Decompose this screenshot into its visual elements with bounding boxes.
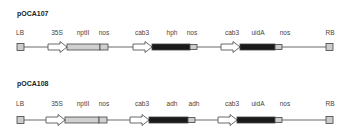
construct-map-1 bbox=[17, 42, 333, 53]
promoter-35s-arrow-2 bbox=[46, 115, 65, 126]
construct-diagrams bbox=[0, 0, 347, 134]
promoter-35s-arrow-1 bbox=[48, 42, 67, 53]
adh-terminator-2 bbox=[188, 118, 195, 123]
lb-border-2 bbox=[17, 117, 24, 124]
rb-border-2 bbox=[326, 117, 333, 124]
construct-map-2 bbox=[17, 115, 333, 126]
nos-terminator-2c bbox=[275, 118, 282, 123]
promoter-cab3-arrow-2a bbox=[130, 115, 149, 126]
rb-border-1 bbox=[326, 44, 333, 51]
promoter-cab3-arrow-1b bbox=[221, 42, 240, 53]
hph-gene-1 bbox=[152, 44, 190, 50]
promoter-cab3-arrow-1a bbox=[133, 42, 152, 53]
adh-gene-2 bbox=[149, 117, 188, 123]
lb-border-1 bbox=[17, 44, 24, 51]
nos-terminator-1c bbox=[275, 45, 282, 50]
nptii-gene-2 bbox=[65, 117, 99, 123]
promoter-cab3-arrow-2b bbox=[218, 115, 237, 126]
nos-terminator-2a bbox=[99, 117, 107, 123]
nos-terminator-1a bbox=[100, 44, 108, 50]
uida-gene-1 bbox=[240, 44, 275, 50]
nptii-gene-1 bbox=[67, 44, 100, 50]
uida-gene-2 bbox=[237, 117, 275, 123]
nos-terminator-1b bbox=[190, 45, 197, 50]
